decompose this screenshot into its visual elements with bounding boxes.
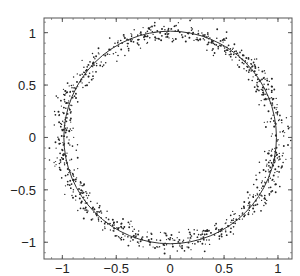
scatter-point (87, 210, 88, 211)
scatter-point (71, 105, 72, 106)
scatter-point (144, 39, 146, 41)
scatter-point (265, 171, 267, 173)
scatter-point (166, 234, 168, 236)
scatter-point (127, 236, 129, 238)
scatter-point (208, 230, 210, 232)
scatter-point (61, 157, 62, 158)
scatter-point (256, 187, 258, 189)
scatter-point (172, 238, 173, 239)
scatter-point (247, 205, 248, 206)
scatter-point (80, 208, 82, 210)
scatter-point (92, 78, 93, 79)
scatter-point (268, 150, 269, 151)
scatter-point (252, 196, 254, 198)
scatter-point (249, 194, 250, 195)
scatter-point (258, 69, 259, 70)
scatter-point (242, 54, 244, 56)
scatter-point (171, 234, 173, 236)
scatter-point (55, 95, 57, 97)
scatter-point (119, 237, 120, 238)
scatter-point (264, 202, 265, 203)
scatter-point (167, 36, 169, 38)
scatter-point (220, 40, 222, 42)
scatter-point (92, 53, 94, 55)
scatter-point (150, 26, 151, 27)
scatter-point (259, 162, 261, 164)
scatter-point (71, 183, 73, 185)
scatter-point (127, 245, 129, 247)
scatter-point (161, 35, 163, 37)
scatter-point (194, 243, 196, 245)
scatter-point (233, 233, 234, 234)
scatter-point (69, 109, 71, 111)
scatter-point (67, 181, 69, 183)
scatter-point (54, 165, 55, 166)
scatter-point (248, 69, 250, 71)
scatter-point (130, 40, 132, 42)
scatter-point (268, 187, 269, 188)
scatter-point (272, 179, 274, 181)
scatter-point (132, 230, 134, 232)
scatter-point (58, 111, 60, 113)
scatter-point (193, 229, 195, 231)
scatter-point (60, 161, 62, 163)
scatter-point (263, 83, 264, 84)
scatter-point (83, 192, 85, 194)
scatter-point (128, 50, 130, 52)
scatter-point (98, 217, 100, 219)
scatter-point (163, 26, 164, 27)
scatter-point (271, 117, 272, 118)
scatter-point (268, 181, 269, 182)
scatter-point (275, 183, 277, 185)
scatter-point (140, 31, 142, 33)
scatter-point (243, 207, 245, 209)
scatter-point (66, 153, 67, 154)
scatter-point (264, 195, 266, 197)
scatter-point (116, 221, 118, 223)
scatter-point (102, 229, 103, 230)
scatter-point (204, 34, 206, 36)
scatter-point (146, 43, 147, 44)
scatter-point (181, 245, 183, 247)
scatter-point (222, 41, 223, 42)
scatter-point (278, 156, 280, 158)
scatter-point (62, 121, 63, 122)
scatter-point (206, 49, 208, 51)
scatter-point (72, 128, 73, 129)
scatter-point (75, 179, 77, 181)
y-tick-label: 0.5 (18, 78, 36, 93)
scatter-point (174, 26, 175, 27)
scatter-point (93, 56, 95, 58)
scatter-point (64, 101, 65, 102)
scatter-point (268, 193, 270, 195)
scatter-point (127, 221, 129, 223)
scatter-point (65, 90, 66, 91)
scatter-point (177, 250, 179, 252)
scatter-point (224, 50, 226, 52)
scatter-point (133, 41, 135, 43)
scatter-point (68, 100, 69, 101)
scatter-point (114, 42, 116, 44)
scatter-point (188, 246, 190, 248)
scatter-point (263, 77, 264, 78)
scatter-point (59, 159, 61, 161)
scatter-point (234, 223, 236, 225)
scatter-point (273, 126, 275, 128)
scatter-point (276, 109, 277, 110)
scatter-point (262, 89, 264, 91)
scatter-point (152, 34, 153, 35)
scatter-point (89, 72, 91, 74)
scatter-point (68, 142, 70, 144)
scatter-point (247, 191, 249, 193)
scatter-point (67, 184, 69, 186)
scatter-point (277, 114, 278, 115)
scatter-point (96, 211, 98, 213)
scatter-point (151, 26, 153, 28)
scatter-point (278, 171, 280, 173)
scatter-point (173, 239, 174, 240)
scatter-point (118, 227, 120, 229)
x-tick-label: 0 (167, 261, 174, 276)
scatter-point (70, 128, 71, 129)
scatter-point (137, 42, 139, 44)
scatter-point (218, 229, 220, 231)
